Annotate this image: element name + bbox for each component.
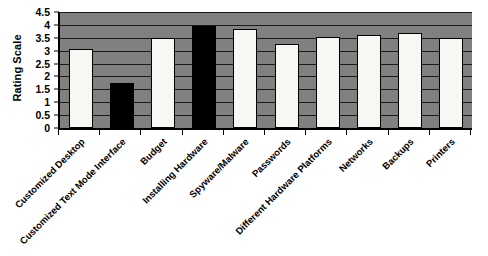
- y-axis-tick-labels: 00.511.522.533.544.5: [26, 12, 54, 128]
- bar: [357, 35, 381, 128]
- bar: [275, 44, 299, 128]
- bar: [316, 37, 340, 129]
- y-tick-label: 4.5: [35, 6, 50, 18]
- bar: [233, 29, 257, 128]
- bar: [110, 83, 134, 128]
- plot-area: [58, 12, 472, 130]
- bar: [439, 38, 463, 128]
- bar: [398, 33, 422, 128]
- y-tick-label: 4: [44, 19, 50, 31]
- bar-chart-figure: Rating Scale 00.511.522.533.544.5 Custom…: [0, 0, 488, 256]
- y-tick-label: 2.5: [35, 58, 50, 70]
- cropped-title-strip: [0, 0, 488, 7]
- bar: [192, 26, 216, 128]
- y-tick-label: 1: [44, 96, 50, 108]
- bar: [151, 38, 175, 128]
- x-axis-category-labels: Customized DesktopCustomized Text Mode I…: [0, 134, 488, 256]
- y-axis-title-text: Rating Scale: [11, 34, 23, 101]
- y-tick-label: 2: [44, 70, 50, 82]
- gridline: [60, 12, 472, 13]
- y-tick-label: 0: [44, 122, 50, 134]
- gridline: [60, 25, 472, 26]
- y-tick-label: 1.5: [35, 83, 50, 95]
- y-tick-label: 0.5: [35, 109, 50, 121]
- y-tick-label: 3.5: [35, 32, 50, 44]
- bar: [69, 49, 93, 128]
- y-axis-title: Rating Scale: [6, 8, 28, 128]
- x-category-label: Spyware/Malware: [0, 136, 251, 256]
- y-tick-label: 3: [44, 45, 50, 57]
